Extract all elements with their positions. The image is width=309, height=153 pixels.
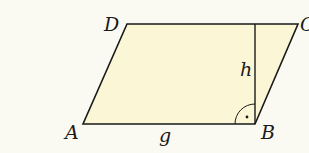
parallelogram-diagram: D C A B g h <box>0 0 309 153</box>
vertex-label-d: D <box>103 13 119 35</box>
parallelogram-shape <box>83 24 298 124</box>
vertex-label-c: C <box>300 13 309 35</box>
vertex-label-a: A <box>63 121 79 143</box>
base-label-g: g <box>159 124 171 146</box>
height-label-h: h <box>240 58 252 80</box>
vertex-label-b: B <box>260 121 275 143</box>
right-angle-dot-icon <box>246 116 249 119</box>
